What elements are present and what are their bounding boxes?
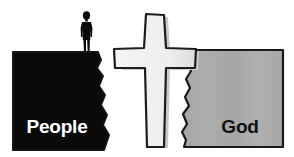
person-silhouette-shape [81, 11, 93, 52]
scene-graphic [0, 0, 294, 157]
cross-bridge-illustration: People (Sinful) God (Holy) [0, 0, 294, 157]
cross-shape [114, 14, 196, 147]
left-cliff-shape [13, 52, 109, 150]
